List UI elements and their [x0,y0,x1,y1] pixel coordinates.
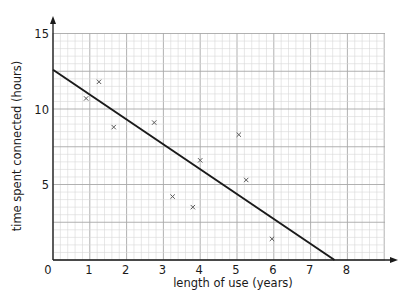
y-tick-label: 10 [34,103,49,117]
x-tick-label: 0 [44,263,51,277]
scatter-chart: 01234567851015 length of use (years) tim… [0,0,417,306]
x-tick-label: 5 [232,263,239,277]
x-tick-label: 1 [85,263,92,277]
x-tick-label: 8 [343,263,350,277]
y-axis-arrow-icon [50,16,56,24]
line-of-best-fit [53,70,335,260]
y-axis-title: time spent connected (hours) [10,61,24,232]
data-points [84,80,274,241]
data-point-x-icon [84,96,88,100]
fit-line [53,70,335,260]
x-axis-title: length of use (years) [173,276,293,290]
grid [53,33,385,260]
y-tick-label: 15 [34,27,49,41]
x-tick-label: 7 [306,263,313,277]
data-point-x-icon [112,125,116,129]
y-tick-label: 5 [42,178,49,192]
x-tick-label: 6 [269,263,276,277]
x-tick-label: 2 [122,263,129,277]
x-axis-arrow-icon [390,257,398,263]
x-tick-label: 4 [196,263,203,277]
x-tick-label: 3 [159,263,166,277]
